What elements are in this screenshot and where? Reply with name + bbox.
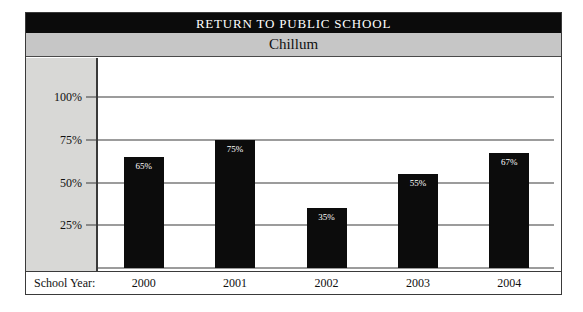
category-axis-row: School Year: 20002001200220032004 (26, 271, 561, 294)
bar[interactable]: 65% (124, 157, 164, 268)
y-axis-tick-label: 50% (60, 175, 82, 190)
gridline (98, 139, 554, 140)
y-axis-tick-label: 75% (60, 132, 82, 147)
plot-region: 25%50%75%100% 65%75%35%55%67% (26, 58, 561, 271)
y-axis-panel: 25%50%75%100% (26, 58, 97, 271)
y-axis-tick-mark (86, 139, 96, 140)
category-axis-tick-label: 2004 (497, 276, 521, 291)
bar[interactable]: 35% (307, 208, 347, 268)
gridline (98, 97, 554, 98)
y-axis-tick-mark (86, 97, 96, 98)
chart-subtitle-bar: Chillum (26, 33, 561, 57)
bar[interactable]: 75% (215, 140, 255, 268)
bar-value-label: 35% (318, 213, 335, 222)
category-axis-tick-label: 2002 (315, 276, 339, 291)
chart-title: RETURN TO PUBLIC SCHOOL (196, 17, 391, 30)
y-axis-tick-label: 100% (54, 90, 82, 105)
category-axis-tick-label: 2003 (406, 276, 430, 291)
bar[interactable]: 55% (398, 174, 438, 268)
plot-area: 65%75%35%55%67% (97, 58, 554, 271)
bar[interactable]: 67% (489, 153, 529, 268)
category-axis-label: School Year: (34, 276, 95, 291)
y-axis-tick-mark (86, 182, 96, 183)
y-axis-tick-label: 25% (60, 218, 82, 233)
bar-value-label: 67% (501, 158, 518, 167)
category-axis-tick-label: 2001 (223, 276, 247, 291)
category-axis-tick-label: 2000 (132, 276, 156, 291)
bar-value-label: 55% (410, 179, 427, 188)
y-axis-tick-mark (86, 225, 96, 226)
chart-frame: RETURN TO PUBLIC SCHOOL Chillum 25%50%75… (25, 12, 562, 295)
chart-subtitle: Chillum (269, 37, 318, 52)
chart-title-bar: RETURN TO PUBLIC SCHOOL (26, 13, 561, 33)
gridline (98, 182, 554, 183)
bar-value-label: 65% (135, 162, 152, 171)
bar-value-label: 75% (227, 145, 244, 154)
